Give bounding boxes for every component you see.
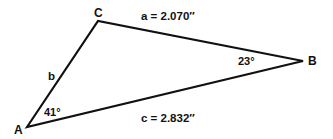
angle-label-a: 41°	[44, 106, 61, 118]
triangle-diagram: C B A a = 2.070″ b c = 2.832″ 41° 23°	[0, 0, 333, 139]
vertex-label-b: B	[308, 54, 317, 68]
vertex-label-a: A	[14, 123, 23, 137]
vertex-label-c: C	[94, 6, 103, 20]
side-label-a: a = 2.070″	[141, 10, 195, 22]
angle-label-b: 23°	[238, 55, 255, 67]
side-label-b: b	[48, 70, 55, 82]
side-label-c: c = 2.832″	[141, 112, 195, 124]
